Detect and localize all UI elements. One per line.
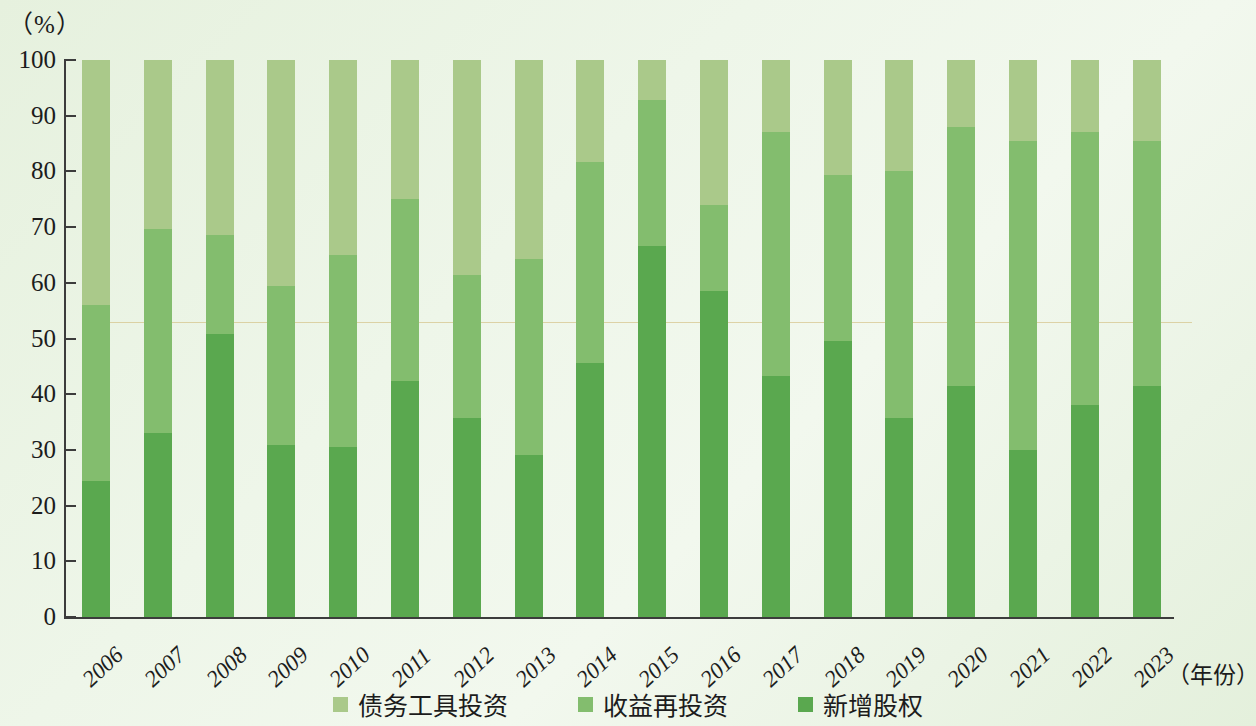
bar-segment-mid <box>824 175 852 341</box>
y-axis-tick <box>64 282 76 284</box>
stacked-bar <box>762 60 790 617</box>
bar-segment-dark <box>700 291 728 617</box>
bar-segment-dark <box>762 376 790 617</box>
legend-swatch-icon <box>578 697 593 712</box>
stacked-bar <box>824 60 852 617</box>
bar-segment-mid <box>82 305 110 480</box>
bar-segment-light <box>144 60 172 229</box>
y-axis-tick <box>64 560 76 562</box>
bar-segment-mid <box>1133 141 1161 387</box>
bar-segment-light <box>638 60 666 100</box>
bar-segment-dark <box>824 341 852 617</box>
y-axis-tick <box>64 449 76 451</box>
bar-segment-light <box>947 60 975 127</box>
y-axis-tick-label: 50 <box>31 325 56 353</box>
legend-label: 债务工具投资 <box>358 686 508 722</box>
y-axis-tick <box>64 616 76 618</box>
stacked-bar <box>329 60 357 617</box>
bar-segment-light <box>824 60 852 175</box>
bar-segment-mid <box>515 259 543 455</box>
stacked-bar <box>1009 60 1037 617</box>
bar-segment-dark <box>576 363 604 617</box>
y-axis-tick-label: 90 <box>31 102 56 130</box>
x-axis-tick-label: 2016 <box>695 642 746 692</box>
stacked-bar <box>82 60 110 617</box>
y-axis-tick <box>64 170 76 172</box>
bar-segment-mid <box>267 286 295 445</box>
y-axis-tick <box>64 338 76 340</box>
x-axis-tick-label: 2019 <box>881 642 932 692</box>
y-axis-tick-label: 80 <box>31 157 56 185</box>
bar-segment-dark <box>638 246 666 617</box>
y-axis-unit-label: （%） <box>8 4 82 40</box>
bar-segment-light <box>1009 60 1037 141</box>
y-axis-tick <box>64 505 76 507</box>
chart-legend: 债务工具投资收益再投资新增股权 <box>0 686 1256 722</box>
legend-label: 收益再投资 <box>603 686 728 722</box>
y-axis-tick-label: 100 <box>19 46 57 74</box>
legend-label: 新增股权 <box>823 686 923 722</box>
bar-segment-mid <box>885 171 913 418</box>
legend-item-debt_instrument_investment[interactable]: 债务工具投资 <box>333 686 508 722</box>
stacked-bar <box>1133 60 1161 617</box>
bar-segment-mid <box>206 235 234 334</box>
stacked-bar <box>885 60 913 617</box>
x-axis-tick-label: 2014 <box>572 642 623 692</box>
y-axis-tick <box>64 226 76 228</box>
legend-item-new_equity[interactable]: 新增股权 <box>798 686 923 722</box>
stacked-bar <box>206 60 234 617</box>
x-axis-tick-label: 2022 <box>1066 642 1117 692</box>
bar-segment-dark <box>329 447 357 617</box>
bar-segment-mid <box>762 132 790 376</box>
bar-segment-dark <box>885 418 913 617</box>
bar-segment-dark <box>1009 450 1037 617</box>
bar-segment-dark <box>515 455 543 617</box>
plot-area: 0102030405060708090100 20062007200820092… <box>82 60 1192 617</box>
stacked-bar <box>700 60 728 617</box>
bar-segment-mid <box>1071 132 1099 405</box>
x-axis-unit-label: （年份） <box>1167 656 1256 690</box>
bar-segment-dark <box>1133 386 1161 617</box>
x-axis-tick-label: 2018 <box>819 642 870 692</box>
bar-segment-dark <box>144 433 172 617</box>
y-axis-tick-label: 10 <box>31 547 56 575</box>
bar-segment-dark <box>391 381 419 617</box>
x-axis-tick-label: 2012 <box>448 642 499 692</box>
x-axis-tick-label: 2008 <box>201 642 252 692</box>
bar-segment-mid <box>638 100 666 246</box>
x-axis-tick-label: 2006 <box>77 642 128 692</box>
stacked-bar <box>1071 60 1099 617</box>
bar-segment-dark <box>453 418 481 617</box>
stacked-bar <box>391 60 419 617</box>
y-axis-tick <box>64 59 76 61</box>
x-axis-line <box>64 617 1174 619</box>
x-axis-tick-label: 2020 <box>943 642 994 692</box>
bar-segment-light <box>885 60 913 171</box>
stacked-bar <box>144 60 172 617</box>
y-axis-tick <box>64 393 76 395</box>
bar-segment-light <box>206 60 234 235</box>
bar-segment-light <box>576 60 604 162</box>
bar-segment-dark <box>1071 405 1099 617</box>
y-axis-tick-label: 40 <box>31 380 56 408</box>
stacked-bar <box>638 60 666 617</box>
bar-segment-dark <box>947 386 975 617</box>
y-axis-tick <box>64 115 76 117</box>
x-axis-tick-label: 2021 <box>1004 642 1055 692</box>
bar-segment-light <box>762 60 790 132</box>
bar-segment-mid <box>144 229 172 433</box>
bar-segment-light <box>267 60 295 286</box>
bar-segment-light <box>82 60 110 305</box>
y-axis-tick-label: 0 <box>44 603 57 631</box>
bar-segment-light <box>391 60 419 199</box>
bar-segment-light <box>453 60 481 275</box>
legend-item-reinvested_earnings[interactable]: 收益再投资 <box>578 686 728 722</box>
bar-segment-mid <box>329 255 357 447</box>
bar-segment-mid <box>700 205 728 291</box>
x-axis-tick-label: 2015 <box>634 642 685 692</box>
bar-segment-light <box>1071 60 1099 132</box>
bar-segment-light <box>515 60 543 259</box>
y-axis-tick-label: 60 <box>31 269 56 297</box>
y-axis-tick-label: 30 <box>31 436 56 464</box>
y-axis-tick-label: 70 <box>31 213 56 241</box>
